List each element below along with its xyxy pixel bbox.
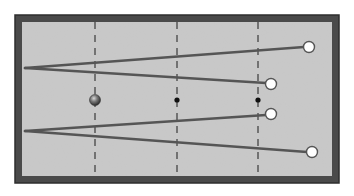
cue-ball[interactable] [90,95,101,106]
object-ball[interactable] [266,109,277,120]
center-spot [174,97,179,102]
right-spot [255,97,260,102]
object-ball[interactable] [307,147,318,158]
object-ball[interactable] [266,79,277,90]
diagram-stage: Billiard table practice drill [0,0,354,196]
billiard-table-diagram: Billiard table practice drill [0,0,354,196]
object-ball[interactable] [304,42,315,53]
